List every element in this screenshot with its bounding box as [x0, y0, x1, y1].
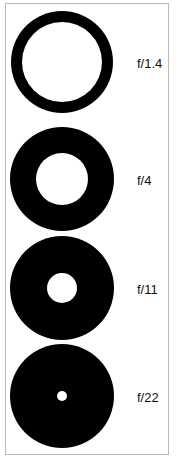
f-stop-label: f/22 [137, 391, 159, 405]
aperture-opening [57, 391, 67, 401]
aperture-opening [47, 273, 77, 303]
aperture-opening [36, 153, 88, 205]
aperture-opening [22, 22, 102, 102]
f-stop-label: f/4 [137, 174, 151, 188]
f-stop-label: f/1.4 [137, 57, 162, 71]
f-stop-label: f/11 [137, 283, 158, 297]
